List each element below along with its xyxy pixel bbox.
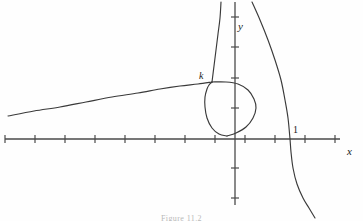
point-label-k: k	[199, 70, 203, 81]
curve-loop-lower	[205, 82, 227, 136]
curve-paths	[8, 2, 315, 218]
axes-group	[5, 2, 340, 205]
curve-loop-upper	[212, 82, 256, 136]
curve-plot	[0, 0, 363, 221]
figure-container: y x k 1 Figure 11.2	[0, 0, 363, 221]
y-axis-label: y	[238, 21, 243, 32]
curve-upper-vertical-branch	[212, 2, 221, 82]
x-axis-label: x	[347, 146, 352, 157]
curve-right-branch	[252, 2, 315, 218]
point-label-one: 1	[293, 124, 298, 135]
figure-caption: Figure 11.2	[0, 214, 363, 221]
curve-left-branch	[8, 82, 212, 116]
